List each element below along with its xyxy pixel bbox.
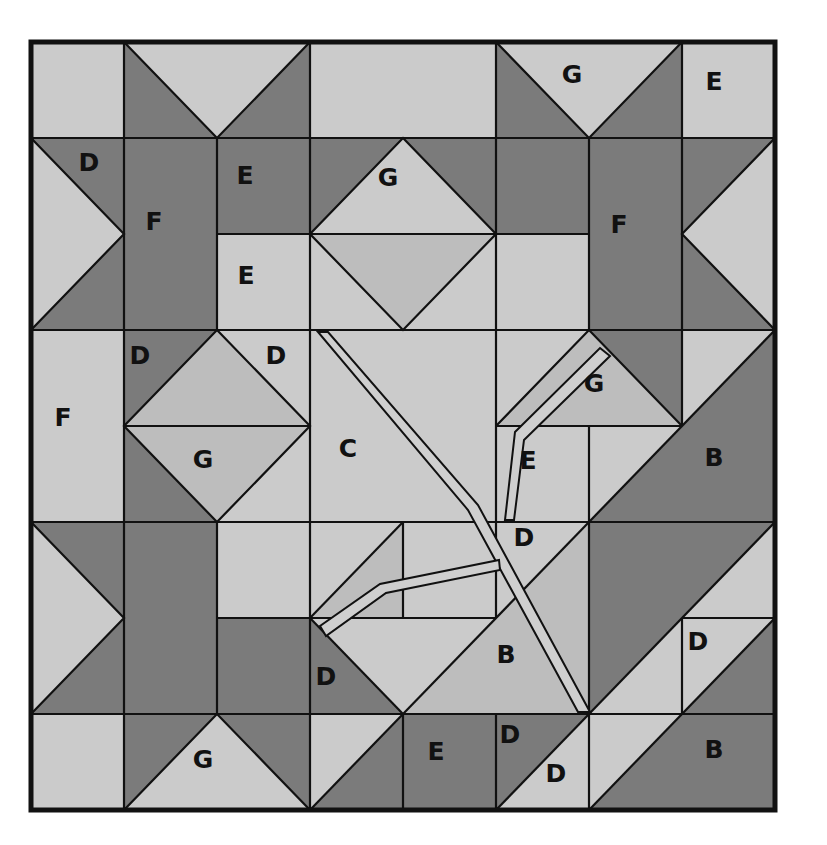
label-d-bottom-dark: D [500, 720, 521, 749]
label-d-center: D [514, 523, 535, 552]
label-b-center-lower: B [496, 640, 515, 669]
label-c-center: C [339, 434, 357, 463]
label-e-upper-light: E [237, 261, 254, 290]
label-d-lower-dark: D [316, 662, 337, 691]
label-d-top-left: D [79, 148, 100, 177]
label-g-upper-diamond: G [378, 163, 399, 192]
label-d-bottom-light: D [546, 759, 567, 788]
label-e-center: E [519, 446, 536, 475]
label-d-mid-left-light: D [266, 341, 287, 370]
label-g-bottom-left: G [193, 745, 214, 774]
label-b-right-upper: B [704, 443, 723, 472]
label-f-left-star: F [145, 207, 162, 236]
label-e-top-right: E [705, 67, 722, 96]
label-d-mid-left-dark: D [130, 341, 151, 370]
quilt-diagram: G E D F E G F E D D G F G C E B D D B D … [0, 0, 827, 845]
label-f-left-edge: F [54, 403, 71, 432]
label-d-right-lower: D [688, 627, 709, 656]
label-g-top-right: G [562, 60, 583, 89]
label-g-mid-diamond: G [193, 445, 214, 474]
label-f-right-star: F [610, 210, 627, 239]
label-e-bottom: E [427, 737, 444, 766]
label-b-bottom-right: B [704, 735, 723, 764]
label-g-leaf: G [584, 369, 605, 398]
label-e-upper-dark: E [236, 161, 253, 190]
